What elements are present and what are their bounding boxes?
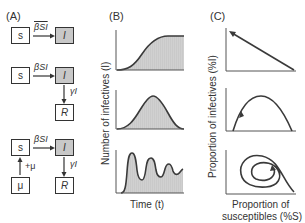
panel-c-ylabel: Proportion of infectives (%I) xyxy=(207,55,218,178)
phase-plot-arch xyxy=(226,88,296,131)
phase-plot-spiral xyxy=(226,150,296,194)
panel-c-xlabel-line1: Proportion of xyxy=(232,199,289,210)
phase-plot-line xyxy=(226,28,296,71)
panel-c-xlabel-line2: susceptibles (%S) xyxy=(222,211,302,222)
panel-c-plots xyxy=(0,0,305,223)
